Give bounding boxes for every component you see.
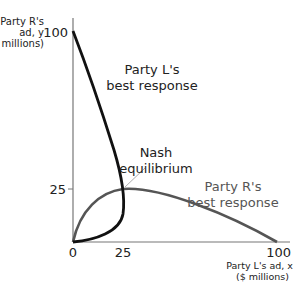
best-response-chart: Party R's ad, y ($ millions) 100 25 0 25… <box>0 0 306 287</box>
x-tick-label-0: 0 <box>69 245 77 260</box>
x-tick-label-100: 100 <box>266 245 291 260</box>
party-l-curve-label-2: best response <box>106 78 197 93</box>
party-r-curve-label-2: best response <box>187 195 278 210</box>
party-l-best-response-curve <box>73 31 124 242</box>
party-r-curve-label-1: Party R's <box>205 179 262 194</box>
nash-label-1: Nash <box>140 145 173 160</box>
y-axis-label-2: ad, y <box>19 27 44 38</box>
party-l-curve-label-1: Party L's <box>124 62 179 77</box>
x-axis-label-1: Party L's ad, x <box>226 260 293 271</box>
x-axis-label-2: ($ millions) <box>236 271 289 282</box>
y-tick-label-100: 100 <box>43 25 68 40</box>
x-tick-label-25: 25 <box>115 245 132 260</box>
y-tick-label-25: 25 <box>49 182 66 197</box>
nash-label-2: equilibrium <box>119 161 192 176</box>
y-axis-label-1: Party R's <box>0 16 44 27</box>
y-axis-label-3: ($ millions) <box>0 38 44 49</box>
